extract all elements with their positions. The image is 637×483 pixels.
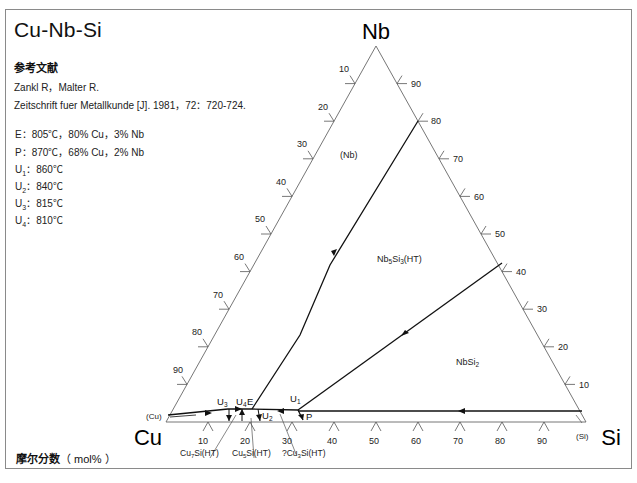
right-tick-label: 10: [579, 380, 589, 390]
vertex-label-si: Si: [601, 425, 621, 450]
left-tick-label: 50: [255, 214, 265, 224]
direction-arrows: [205, 249, 465, 421]
bottom-tick-label: 50: [369, 436, 379, 446]
right-tick-label: 70: [453, 154, 463, 164]
point-label-u2: U2: [262, 410, 273, 422]
phase-label-nb: (Nb): [340, 150, 358, 160]
bottom-tick-label: 90: [537, 436, 547, 446]
left-axis-ticks: [177, 76, 355, 385]
phase-label-si-solid: (Si): [576, 432, 589, 441]
point-label-p: P: [306, 411, 312, 422]
right-tick-label: 90: [411, 79, 421, 89]
arrow-icon: [298, 414, 304, 420]
line-nb-nb5si3: [252, 121, 418, 409]
point-label-u3: U3: [217, 396, 228, 408]
point-label-u4: U4: [236, 396, 247, 408]
right-tick-label: 30: [537, 304, 547, 314]
bottom-axis-ticks: [203, 422, 549, 431]
right-tick-label: 80: [431, 116, 441, 126]
line-u1-e: [252, 409, 298, 410]
bottom-tick-label: 80: [495, 436, 505, 446]
right-axis-ticks: [397, 76, 575, 385]
point-label-u1: U1: [290, 393, 301, 405]
bottom-tick-label: 20: [240, 436, 250, 446]
phase-label-cu5si: Cu5Si(HT): [232, 448, 271, 459]
phase-label-cu-solid: (Cu): [146, 412, 162, 421]
right-tick-label: 60: [474, 192, 484, 202]
left-tick-label: 40: [276, 177, 286, 187]
phase-label-cu7si: Cu7Si(HT): [180, 448, 219, 459]
phase-label-nb5si3: Nb5Si3(HT): [377, 254, 422, 265]
arrow-icon: [458, 408, 465, 414]
left-tick-label: 60: [234, 252, 244, 262]
left-tick-label: 10: [339, 64, 349, 74]
left-tick-label: 30: [297, 139, 307, 149]
bottom-tick-label: 70: [453, 436, 463, 446]
bottom-tick-label: 40: [327, 436, 337, 446]
left-tick-label: 80: [192, 327, 202, 337]
phase-label-nbsi2: NbSi2: [456, 357, 480, 368]
left-tick-label: 70: [213, 290, 223, 300]
right-tick-label: 40: [516, 267, 526, 277]
vertex-label-nb: Nb: [362, 19, 390, 44]
line-nb5si3-nbsi2: [298, 263, 502, 410]
right-tick-label: 20: [558, 342, 568, 352]
point-label-e: E: [247, 396, 253, 407]
right-tick-label: 50: [495, 229, 505, 239]
cu-solubility-line: [170, 415, 196, 417]
left-tick-label: 20: [318, 102, 328, 112]
arrow-icon: [226, 415, 232, 421]
vertex-label-cu: Cu: [134, 425, 162, 450]
phase-label-cu3si: ?Cu3Si(HT): [282, 448, 326, 459]
ternary-diagram: Nb Cu Si 10 20 30 40 50 60 70 80 90: [0, 0, 637, 483]
left-tick-label: 90: [173, 365, 183, 375]
bottom-tick-label: 60: [411, 436, 421, 446]
ternary-triangle: [166, 46, 586, 422]
bottom-tick-label: 10: [198, 436, 208, 446]
arrow-icon: [277, 408, 284, 414]
